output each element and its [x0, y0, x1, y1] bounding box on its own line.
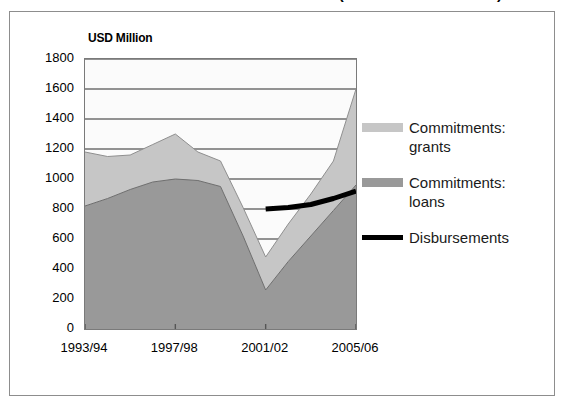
- y-tick-label: 1600: [28, 80, 74, 95]
- legend-label: Commitments: grants: [409, 118, 506, 156]
- plot-area: [84, 58, 357, 330]
- y-tick-label: 200: [28, 290, 74, 305]
- y-tick-label: 800: [28, 200, 74, 215]
- y-tick-label: 600: [28, 230, 74, 245]
- x-tick-label: 1997/98: [139, 340, 209, 355]
- y-axis-units-label: USD Million: [88, 31, 152, 45]
- area-swatch-grants-icon: [362, 123, 403, 132]
- legend-entry[interactable]: Commitments: loans: [362, 173, 552, 211]
- y-tick-label: 1400: [28, 110, 74, 125]
- legend-label: Disbursements: [409, 228, 509, 247]
- line-swatch-disbursements-icon: [362, 235, 403, 240]
- chart-legend: Commitments: grantsCommitments: loansDis…: [362, 118, 552, 264]
- chart-title: Aid Commitments and Disbursements (milli…: [0, 0, 565, 2]
- legend-entry[interactable]: Disbursements: [362, 228, 552, 247]
- y-tick-label: 400: [28, 260, 74, 275]
- chart-title-strip: Aid Commitments and Disbursements (milli…: [0, 0, 565, 11]
- y-tick-label: 0: [28, 320, 74, 335]
- legend-entry[interactable]: Commitments: grants: [362, 118, 552, 156]
- x-tick-label: 2001/02: [230, 340, 300, 355]
- chart-plot-svg: [85, 59, 356, 329]
- legend-label: Commitments: loans: [409, 173, 506, 211]
- y-tick-label: 1000: [28, 170, 74, 185]
- x-tick-label: 1993/94: [49, 340, 119, 355]
- x-tick-label: 2005/06: [320, 340, 390, 355]
- area-swatch-loans-icon: [362, 178, 403, 187]
- y-tick-label: 1800: [28, 50, 74, 65]
- y-tick-label: 1200: [28, 140, 74, 155]
